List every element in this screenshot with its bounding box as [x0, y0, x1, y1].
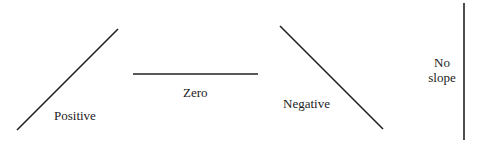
- slope-diagram: [0, 0, 478, 145]
- negative-label: Negative: [283, 96, 330, 111]
- no-slope-label: No slope: [424, 55, 460, 85]
- no-slope-label-line1: No: [424, 55, 460, 70]
- no-slope-label-line2: slope: [424, 70, 460, 85]
- negative-slope-line: [280, 26, 383, 129]
- positive-label: Positive: [54, 108, 96, 123]
- zero-label: Zero: [183, 85, 208, 100]
